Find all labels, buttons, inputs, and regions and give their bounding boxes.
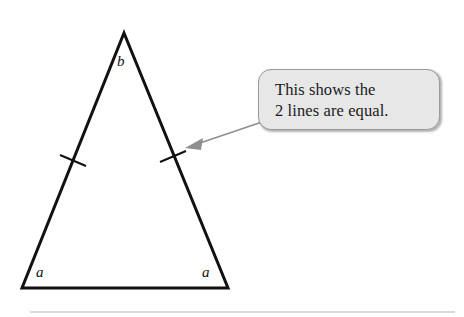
callout-arrow-head-icon (185, 138, 203, 150)
triangle-shape (22, 33, 228, 288)
callout-line-2: 2 lines are equal. (275, 100, 431, 121)
callout-arrow-line (197, 122, 262, 144)
base-angle-left-label: a (36, 265, 44, 280)
callout-box: This shows the 2 lines are equal. (258, 69, 440, 130)
callout-line-1: This shows the (275, 79, 431, 100)
base-angle-right-label: a (202, 265, 210, 280)
figure-canvas: b a a This shows the 2 lines are equal. (0, 0, 464, 317)
apex-angle-label: b (117, 54, 125, 69)
geometry-figure (0, 0, 464, 317)
